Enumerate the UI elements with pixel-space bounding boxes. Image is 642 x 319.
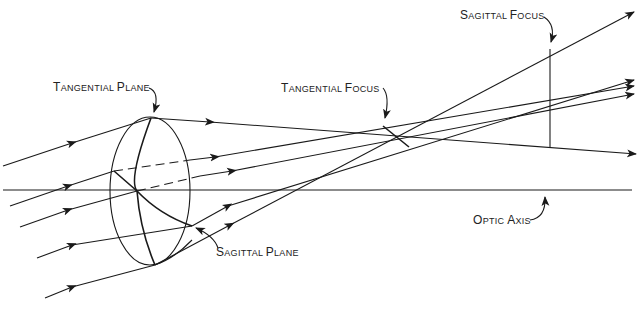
label-cap: T — [281, 81, 289, 95]
sagittal-plane-curve — [114, 171, 192, 226]
ray-1-out-b — [210, 122, 636, 154]
label-text: OCUS — [352, 84, 379, 94]
ray-3-out — [200, 171, 232, 176]
ray-3-dashed — [137, 176, 200, 191]
sagittal-plane-pointer — [196, 228, 218, 248]
ray-2-out — [190, 157, 215, 160]
ray-4-incoming-b — [72, 226, 192, 245]
label-cap: P — [117, 80, 125, 94]
label-text: XIS — [515, 216, 530, 226]
tangential-plane-pointer — [149, 88, 156, 112]
tangential-focus-label: TANGENTIAL FOCUS — [281, 81, 380, 95]
tangential-plane-label: TANGENTIAL PLANE — [53, 80, 150, 94]
label-text: PTIC — [483, 216, 508, 226]
ray-2-out-b — [215, 86, 634, 157]
sagittal-focus-label: SAGITTAL FOCUS — [460, 8, 545, 22]
label-cap: O — [473, 213, 483, 227]
ray-3-incoming — [20, 210, 68, 227]
ray-2-incoming-b — [68, 171, 114, 186]
ray-5-out-b — [230, 12, 634, 225]
ray-5-incoming — [45, 287, 72, 298]
optic-axis-label: OPTIC AXIS — [473, 213, 531, 227]
optic-axis-pointer — [530, 197, 545, 220]
astigmatism-diagram: TANGENTIAL PLANE TANGENTIAL FOCUS SAGITT… — [0, 0, 642, 319]
label-text: AGITTAL — [468, 11, 509, 21]
label-text: LANE — [125, 83, 150, 93]
sagittal-plane-label: SAGITTAL PLANE — [216, 245, 299, 259]
ray-1-incoming — [3, 143, 72, 166]
sagittal-focus-pointer — [544, 17, 552, 42]
label-text: OCUS — [517, 11, 544, 21]
label-cap: T — [53, 80, 61, 94]
lens-outline — [110, 117, 190, 265]
tangential-focus-pointer — [383, 88, 387, 118]
label-text: LANE — [274, 248, 299, 258]
label-text: ANGENTIAL — [61, 83, 117, 93]
ray-2-incoming — [10, 186, 68, 206]
ray-1-out-a — [151, 118, 210, 122]
label-text: ANGENTIAL — [289, 84, 345, 94]
ray-4-out — [192, 206, 228, 226]
ray-4-incoming — [37, 245, 72, 258]
label-text: AGITTAL — [224, 248, 265, 258]
ray-1-incoming-b — [72, 118, 151, 143]
ray-3-out-b — [232, 94, 634, 171]
diagram-canvas — [0, 0, 642, 319]
ray-5-incoming-b — [72, 265, 155, 287]
ray-4-out-b — [228, 80, 634, 206]
label-cap: P — [266, 245, 274, 259]
ray-3-incoming-b — [68, 191, 137, 210]
sagittal-plane-lower — [155, 240, 192, 265]
ray-2-dashed — [114, 160, 190, 171]
